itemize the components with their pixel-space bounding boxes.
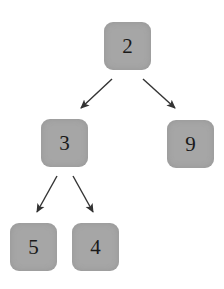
node-label: 2 bbox=[122, 34, 133, 59]
tree-node-2: 2 bbox=[104, 22, 151, 70]
edge-2-to-9 bbox=[143, 79, 175, 108]
edge-3-to-4 bbox=[73, 176, 93, 212]
node-label: 9 bbox=[185, 132, 196, 157]
node-label: 3 bbox=[59, 131, 70, 156]
node-label: 5 bbox=[28, 235, 39, 260]
tree-node-4: 4 bbox=[72, 223, 119, 271]
tree-node-5: 5 bbox=[10, 223, 57, 271]
node-label: 4 bbox=[90, 235, 101, 260]
tree-node-9: 9 bbox=[167, 120, 214, 168]
edge-2-to-3 bbox=[81, 79, 112, 108]
edge-3-to-5 bbox=[37, 176, 57, 212]
tree-node-3: 3 bbox=[41, 119, 88, 167]
